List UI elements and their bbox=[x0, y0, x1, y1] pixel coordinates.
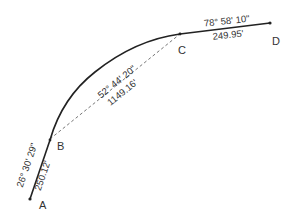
point-a-marker bbox=[28, 197, 31, 200]
point-b-marker bbox=[49, 139, 52, 142]
point-c-marker bbox=[179, 33, 182, 36]
ab-length-label: 250.12' bbox=[32, 159, 53, 192]
point-a-label: A bbox=[39, 199, 47, 211]
cd-length-label: 249.95' bbox=[212, 28, 244, 42]
point-d-label: D bbox=[272, 35, 280, 47]
point-b-label: B bbox=[57, 140, 64, 152]
point-c-label: C bbox=[178, 44, 186, 56]
alignment-diagram: A B C D 26° 30' 29" 250.12' 52° 44' 20" … bbox=[0, 0, 294, 222]
point-d-marker bbox=[268, 21, 271, 24]
